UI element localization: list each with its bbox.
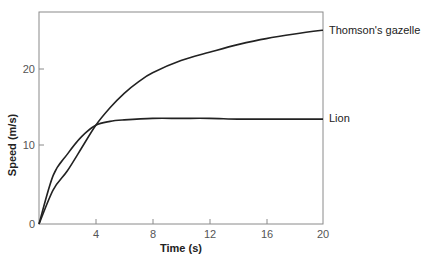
x-tick-label-8: 8 xyxy=(150,228,156,240)
x-axis-title: Time (s) xyxy=(160,242,202,254)
x-tick-label-16: 16 xyxy=(261,228,273,240)
x-tick-label-12: 12 xyxy=(204,228,216,240)
gazelle-line xyxy=(39,30,323,224)
speed-time-chart: 0 10 20 Speed (m/s) 4 8 12 16 20 Time (s… xyxy=(0,0,422,258)
y-axis-title: Speed (m/s) xyxy=(6,113,18,176)
y-tick-label-20: 20 xyxy=(23,63,35,75)
lion-line xyxy=(39,118,323,224)
y-tick-label-10: 10 xyxy=(23,139,35,151)
lion-series-label: Lion xyxy=(329,112,350,124)
x-tick-label-4: 4 xyxy=(93,228,99,240)
y-axis: 0 10 20 Speed (m/s) xyxy=(6,63,44,230)
x-tick-label-20: 20 xyxy=(317,228,329,240)
y-tick-label-0: 0 xyxy=(29,218,35,230)
gazelle-series-label: Thomson's gazelle xyxy=(329,24,420,36)
